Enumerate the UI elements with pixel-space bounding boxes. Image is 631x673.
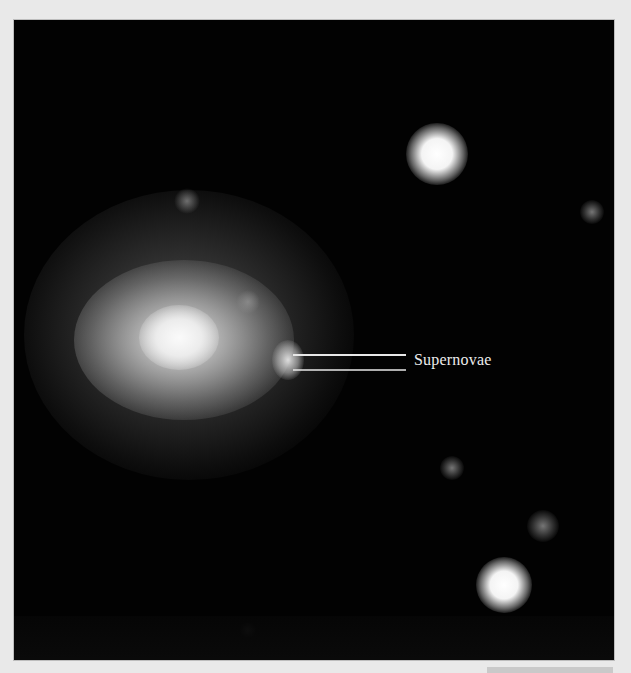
bright-star xyxy=(406,123,468,185)
dim-star xyxy=(527,510,559,542)
caption-bar xyxy=(487,667,613,673)
small-star xyxy=(174,188,200,214)
supernova xyxy=(272,340,304,380)
bright-star xyxy=(476,557,532,613)
bottom-noise-band xyxy=(14,616,614,660)
pointer-line-upper xyxy=(293,354,406,356)
dim-star xyxy=(580,200,604,224)
dim-star xyxy=(440,456,464,480)
galaxy-knot xyxy=(236,290,260,314)
astronomical-photo: Supernovae xyxy=(14,20,614,660)
supernovae-label: Supernovae xyxy=(414,351,492,369)
galaxy-core xyxy=(139,305,219,370)
pointer-line-lower xyxy=(293,369,406,371)
